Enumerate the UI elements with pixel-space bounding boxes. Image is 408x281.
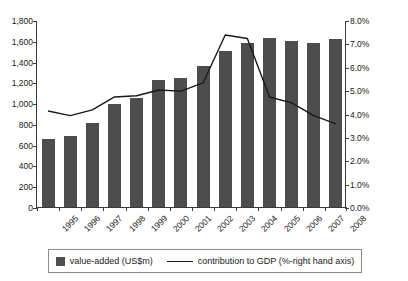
legend-item-value-added: value-added (US$m) <box>56 256 153 266</box>
right-tick-label-6: 6.0% <box>350 64 369 73</box>
chart-legend: value-added (US$m) contribution to GDP (… <box>48 249 362 273</box>
right-tick-label-3: 3.0% <box>350 134 369 143</box>
right-tick-label-7: 7.0% <box>350 40 369 49</box>
x-axis-label-1996: 1996 <box>83 214 102 233</box>
left-tickmark-200 <box>33 187 37 188</box>
right-tick-label-5: 5.0% <box>350 87 369 96</box>
x-axis-label-2007: 2007 <box>326 214 345 233</box>
right-tickmark-4 <box>345 115 349 116</box>
x-axis-label-2001: 2001 <box>193 214 212 233</box>
left-tick-label-0: 0 <box>28 204 33 213</box>
plot-area: 02004006008001,0001,2001,4001,6001,800 0… <box>36 21 346 208</box>
left-tickmark-600 <box>33 146 37 147</box>
right-tickmark-3 <box>345 138 349 139</box>
left-tick-label-1400: 1,400 <box>12 58 33 67</box>
x-axis-label-2000: 2000 <box>171 214 190 233</box>
left-tickmark-1400 <box>33 63 37 64</box>
left-tickmark-1200 <box>33 83 37 84</box>
chart-figure: 02004006008001,0001,2001,4001,6001,800 0… <box>0 0 408 281</box>
left-tickmark-800 <box>33 125 37 126</box>
x-axis-label-2008: 2008 <box>348 214 367 233</box>
left-tick-label-600: 600 <box>19 141 33 150</box>
x-axis-label-2005: 2005 <box>282 214 301 233</box>
right-tickmark-2 <box>345 161 349 162</box>
right-tickmark-7 <box>345 44 349 45</box>
right-tickmark-6 <box>345 68 349 69</box>
legend-label-value-added: value-added (US$m) <box>70 256 153 266</box>
left-tick-label-200: 200 <box>19 183 33 192</box>
left-tick-label-1200: 1,200 <box>12 79 33 88</box>
left-tick-label-1600: 1,600 <box>12 38 33 47</box>
left-tickmark-1800 <box>33 21 37 22</box>
x-axis-labels: 1995199619971998199920002001200220032004… <box>36 210 346 250</box>
x-axis-label-1997: 1997 <box>105 214 124 233</box>
right-tick-label-2: 2.0% <box>350 157 369 166</box>
left-tick-label-400: 400 <box>19 162 33 171</box>
left-tick-label-1800: 1,800 <box>12 17 33 26</box>
right-tickmark-5 <box>345 91 349 92</box>
x-axis-label-1995: 1995 <box>61 214 80 233</box>
x-tickmark-14 <box>346 207 347 211</box>
right-tickmark-1 <box>345 185 349 186</box>
left-tickmark-400 <box>33 166 37 167</box>
right-tick-label-4: 4.0% <box>350 110 369 119</box>
left-tick-label-800: 800 <box>19 121 33 130</box>
x-axis-label-1999: 1999 <box>149 214 168 233</box>
left-tick-label-1000: 1,000 <box>12 100 33 109</box>
left-tickmark-1600 <box>33 42 37 43</box>
legend-item-contribution-to-gdp: contribution to GDP (%-right hand axis) <box>167 256 354 266</box>
x-axis-label-2002: 2002 <box>216 214 235 233</box>
x-axis-label-2004: 2004 <box>260 214 279 233</box>
line-series-layer <box>37 21 347 208</box>
legend-label-contribution-to-gdp: contribution to GDP (%-right hand axis) <box>198 256 354 266</box>
gdp-contribution-line <box>48 35 336 124</box>
legend-bar-swatch-icon <box>56 257 65 266</box>
right-tick-label-0: 0.0% <box>350 204 369 213</box>
right-tick-label-8: 8.0% <box>350 17 369 26</box>
x-axis-label-1998: 1998 <box>127 214 146 233</box>
right-tickmark-8 <box>345 21 349 22</box>
right-tick-label-1: 1.0% <box>350 180 369 189</box>
legend-line-swatch-icon <box>167 261 193 262</box>
x-axis-label-2003: 2003 <box>238 214 257 233</box>
left-tickmark-1000 <box>33 104 37 105</box>
x-axis-label-2006: 2006 <box>304 214 323 233</box>
